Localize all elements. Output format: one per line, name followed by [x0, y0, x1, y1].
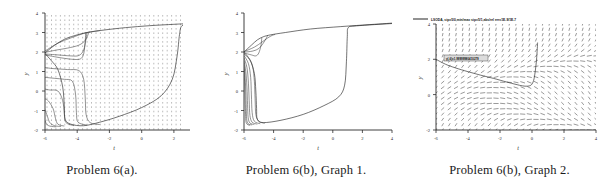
slope-dash — [594, 124, 598, 126]
slope-dash — [549, 38, 550, 41]
slope-dash — [474, 76, 478, 78]
slope-dash — [480, 98, 485, 99]
slope-dash — [496, 33, 497, 36]
slope-dash — [469, 33, 470, 36]
trajectory-separatrix-upper — [45, 24, 190, 53]
slope-dash — [581, 113, 584, 116]
slope-dash — [527, 76, 532, 77]
x-ticklabel: 4 — [595, 136, 598, 141]
slope-dash — [548, 108, 552, 110]
trajectory-inner-2 — [244, 35, 268, 52]
slope-dash — [548, 55, 551, 58]
slope-dash — [507, 71, 512, 72]
slope-dash — [588, 70, 591, 73]
panel-problem-6b-graph1: 4 3 2 1 0 -1 -2 -6 -4 -2 0 2 4 — [204, 0, 408, 182]
slope-dash — [541, 97, 544, 100]
slope-dash — [442, 118, 444, 121]
slope-dash — [461, 70, 464, 73]
slope-dash — [442, 44, 443, 47]
slope-dash — [587, 61, 592, 62]
slope-dash — [495, 54, 497, 57]
slope-dash — [474, 70, 477, 73]
y-ticklabel: 3 — [236, 31, 239, 36]
slope-dash — [462, 49, 463, 52]
slope-dash — [547, 113, 551, 115]
y-ticklabel: 1 — [236, 70, 239, 75]
slope-dash — [581, 76, 584, 79]
y-ticklabel: -2 — [426, 128, 431, 133]
slope-dash — [447, 92, 451, 94]
slope-dash — [495, 60, 497, 63]
slope-dash — [474, 113, 478, 115]
slope-dash — [455, 70, 458, 73]
slope-dash — [522, 22, 523, 25]
slope-dash — [595, 33, 596, 36]
slope-dash — [456, 28, 457, 31]
slope-dash — [582, 28, 583, 31]
slope-dash — [555, 33, 556, 36]
slope-dash — [574, 55, 578, 57]
slope-dash — [469, 44, 470, 47]
slope-dash — [514, 124, 518, 126]
slope-dash — [502, 28, 503, 31]
slope-dash — [542, 49, 544, 52]
x-ticklabel: -4 — [272, 136, 277, 141]
slope-dash — [455, 113, 458, 116]
slope-dash — [469, 22, 470, 25]
trajectory-traj-9 — [45, 110, 61, 127]
slope-dash — [500, 114, 505, 115]
slope-dash — [454, 76, 457, 79]
slope-dash — [575, 76, 578, 79]
slope-dash — [587, 124, 591, 126]
slope-dash — [494, 65, 497, 68]
slope-dash — [522, 44, 523, 47]
slope-dash — [482, 38, 483, 41]
slope-dash — [568, 107, 571, 110]
slope-dash — [520, 82, 525, 83]
slope-dash — [461, 81, 465, 83]
x-ticklabel: -4 — [466, 136, 471, 141]
slope-dash — [574, 71, 577, 73]
slope-dash — [595, 107, 597, 110]
slope-dash — [514, 92, 518, 94]
slope-dash — [561, 76, 564, 78]
figure-row: 4 3 2 1 0 -1 -2 -6 -4 -2 0 2 t — [0, 0, 611, 182]
slope-dash — [529, 22, 530, 25]
x-axis-label-c: t — [517, 145, 519, 151]
slope-dash — [534, 108, 538, 110]
slope-dash — [454, 97, 458, 99]
slope-dash — [575, 33, 576, 36]
slope-dash — [576, 22, 577, 25]
slope-dash — [595, 102, 597, 105]
slope-dash — [561, 86, 564, 89]
slope-dash — [461, 118, 464, 121]
slope-dash — [500, 98, 505, 99]
slope-dash — [494, 113, 499, 114]
slope-dash — [449, 38, 450, 41]
x-axis-label-b: t — [317, 145, 319, 151]
slope-dash — [528, 60, 532, 62]
slope-dash — [514, 60, 517, 63]
slope-dash — [595, 44, 598, 47]
slope-dash — [467, 103, 471, 105]
slope-dash — [555, 102, 558, 105]
slope-dash — [520, 77, 525, 78]
slope-dash — [502, 38, 503, 41]
x-ticklabel: 2 — [361, 136, 364, 141]
slope-dash — [561, 55, 565, 57]
slope-dash — [595, 118, 598, 121]
slope-dash — [542, 33, 543, 36]
slope-dash — [441, 107, 444, 110]
slope-dash — [547, 119, 552, 120]
slope-dash — [522, 33, 523, 36]
slope-dash — [467, 92, 472, 93]
slope-dash — [554, 108, 557, 111]
slope-dash — [535, 49, 537, 52]
slope-dash — [567, 71, 571, 73]
slope-dash — [496, 38, 497, 41]
slope-dash — [487, 71, 491, 73]
slope-dash — [540, 66, 545, 67]
slope-dash — [467, 87, 472, 89]
slope-dash — [467, 81, 471, 83]
slope-dash — [522, 49, 524, 52]
